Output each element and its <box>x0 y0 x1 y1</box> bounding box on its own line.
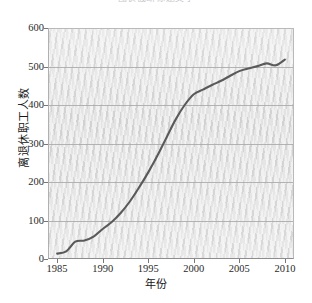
x-tick-label-1985: 1985 <box>47 263 68 274</box>
x-tick-mark-1995 <box>148 259 149 263</box>
x-tick-mark-2000 <box>194 259 195 263</box>
x-axis-title: 年份 <box>0 279 312 290</box>
x-tick-mark-1990 <box>103 259 104 263</box>
y-tick-label-600: 600 <box>0 23 44 34</box>
chart-page: 图表截断标题文字 0100200300400500600 19851990199… <box>0 0 312 303</box>
x-tick-label-1990: 1990 <box>92 263 113 274</box>
y-axis-title: 离退休职工人数 <box>19 63 30 193</box>
x-tick-label-2005: 2005 <box>229 263 250 274</box>
y-tick-mark-0 <box>44 259 48 260</box>
x-tick-label-1995: 1995 <box>138 263 159 274</box>
y-tick-label-0: 0 <box>0 254 44 265</box>
x-tick-label-2010: 2010 <box>274 263 295 274</box>
cropped-caption-text: 图表截断标题文字 <box>0 0 312 11</box>
x-tick-mark-2005 <box>239 259 240 263</box>
x-tick-label-2000: 2000 <box>183 263 204 274</box>
plot-area <box>48 28 294 259</box>
x-tick-mark-1985 <box>57 259 58 263</box>
y-tick-label-100: 100 <box>0 216 44 227</box>
line-series <box>48 28 294 259</box>
x-tick-mark-2010 <box>285 259 286 263</box>
series-path-retirees <box>57 60 285 254</box>
